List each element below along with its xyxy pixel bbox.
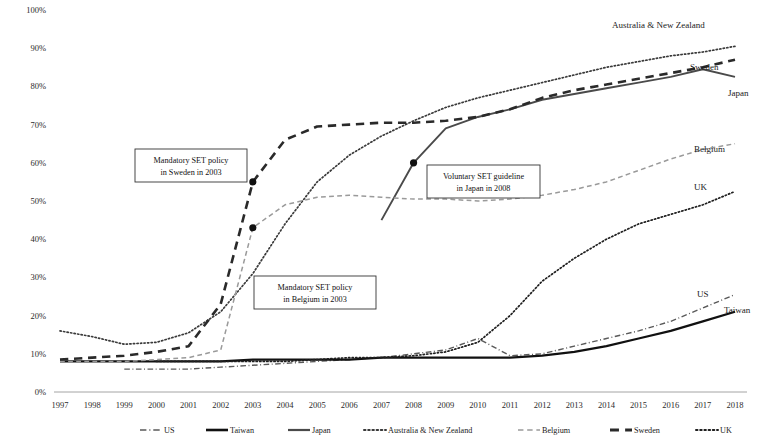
y-axis-tick-labels: 0%10%20%30%40%50%60%70%80%90%100% (26, 5, 46, 397)
legend: USTaiwanJapanAustralia & New ZealandBelg… (140, 426, 732, 435)
series-end-label: Belgium (694, 144, 725, 154)
y-axis-tick-label: 40% (30, 234, 46, 244)
annotation-line-1: Voluntary SET guideline (443, 172, 524, 181)
y-axis-tick-label: 0% (35, 387, 46, 397)
x-axis-tick-label: 2001 (180, 400, 197, 410)
x-axis-tick-label: 2008 (405, 400, 422, 410)
x-axis-tick-label: 2009 (437, 400, 454, 410)
data-series-layer (60, 46, 735, 369)
y-axis-tick-label: 90% (30, 43, 46, 53)
x-axis-tick-label: 2006 (341, 400, 358, 410)
legend-label-sweden[interactable]: Sweden (634, 426, 660, 435)
series-end-labels: Australia & New ZealandSwedenJapanBelgiu… (612, 20, 751, 315)
line-chart: 0%10%20%30%40%50%60%70%80%90%100% 199719… (0, 0, 757, 446)
chart-container: 0%10%20%30%40%50%60%70%80%90%100% 199719… (0, 0, 757, 446)
annotation-line-1: Mandatory SET policy (154, 156, 230, 165)
series-end-label: US (697, 289, 709, 299)
x-axis-tick-label: 2004 (277, 400, 295, 410)
x-axis-tick-label: 2016 (662, 400, 679, 410)
annotation-line-1: Mandatory SET policy (278, 283, 354, 292)
x-axis-tick-label: 2003 (244, 400, 261, 410)
y-axis-tick-label: 70% (30, 120, 46, 130)
legend-label-uk[interactable]: UK (720, 426, 732, 435)
x-axis-tick-label: 2015 (630, 400, 647, 410)
event-marker-japan (410, 159, 417, 166)
x-axis-tick-label: 2017 (694, 400, 711, 410)
legend-label-australia-new-zealand[interactable]: Australia & New Zealand (388, 426, 472, 435)
event-marker-belgium (249, 224, 256, 231)
series-end-label: UK (694, 182, 707, 192)
legend-label-belgium[interactable]: Belgium (542, 426, 571, 435)
x-axis-tick-label: 2010 (469, 400, 486, 410)
x-axis-tick-label: 2007 (373, 400, 390, 410)
legend-label-us[interactable]: US (164, 426, 175, 435)
series-end-label: Australia & New Zealand (612, 20, 705, 30)
x-axis-tick-label: 2002 (212, 400, 229, 410)
annotation-line-2: in Belgium in 2003 (283, 295, 346, 304)
x-axis-tick-label: 2013 (566, 400, 583, 410)
x-axis-tick-label: 2005 (309, 400, 326, 410)
annotation-box-belgium-policy (254, 276, 376, 309)
series-end-label: Sweden (690, 62, 719, 72)
event-marker-sweden (249, 178, 256, 185)
y-axis-tick-label: 100% (26, 5, 46, 15)
annotations-layer: Mandatory SET policyin Sweden in 2003Man… (135, 149, 540, 309)
y-axis-tick-label: 30% (30, 272, 46, 282)
y-axis-tick-label: 60% (30, 158, 46, 168)
y-axis-tick-label: 80% (30, 81, 46, 91)
annotation-box-sweden-policy (135, 149, 247, 182)
x-axis-tick-label: 1997 (52, 400, 69, 410)
x-axis-tick-label: 2012 (534, 400, 551, 410)
x-axis-tick-label: 2018 (727, 400, 744, 410)
x-axis-tick-labels: 1997199819992000200120022003200420052006… (52, 400, 744, 410)
series-line-taiwan (60, 312, 735, 362)
y-axis-tick-label: 20% (30, 311, 46, 321)
y-axis-tick-label: 50% (30, 196, 46, 206)
x-axis-tick-label: 2011 (502, 400, 519, 410)
series-end-label: Japan (728, 88, 749, 98)
annotation-line-2: in Sweden in 2003 (160, 168, 221, 177)
y-axis-tick-label: 10% (30, 349, 46, 359)
x-axis-tick-label: 1998 (84, 400, 101, 410)
series-line-australia-new-zealand (60, 46, 735, 344)
x-axis-tick-label: 1999 (116, 400, 133, 410)
legend-label-taiwan[interactable]: Taiwan (230, 426, 254, 435)
event-markers-layer (249, 159, 417, 231)
x-axis-tick-label: 2014 (598, 400, 616, 410)
annotation-box-japan-guideline (427, 165, 540, 198)
legend-label-japan[interactable]: Japan (312, 426, 331, 435)
series-end-label: Taiwan (724, 305, 751, 315)
series-line-sweden (60, 60, 735, 360)
annotation-line-2: in Japan in 2008 (457, 184, 511, 193)
x-axis-tick-label: 2000 (148, 400, 165, 410)
